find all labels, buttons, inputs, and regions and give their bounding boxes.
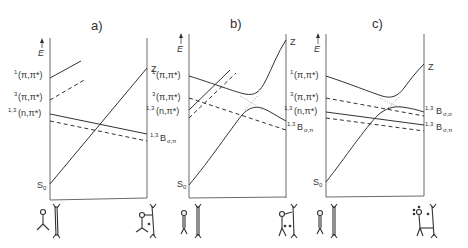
- label-sub: 0: [319, 182, 323, 188]
- curve-s0-b-b: [189, 107, 286, 185]
- label-sup: 1,3: [150, 132, 159, 138]
- curve-3pipi-c: [326, 98, 424, 116]
- label-sub: σ,π: [167, 138, 177, 144]
- molecule-product-a: [136, 204, 156, 238]
- label-1pipi-b: (π,π*): [156, 70, 180, 80]
- label-sub: σ,π: [304, 127, 314, 133]
- label-3pipi-b: (π,π*): [156, 92, 180, 102]
- curve-3pipi-b: [189, 98, 286, 130]
- label-b-sigma-sigma-c: B: [436, 106, 442, 116]
- bottom-axis-c: [326, 196, 424, 197]
- label-z-b: Z: [290, 37, 296, 47]
- label-1pipi-a: (π,π*): [18, 70, 42, 80]
- curve-1pipi-z-c: [326, 64, 424, 97]
- label-npi-c: (n,π*): [294, 106, 317, 116]
- curve-1pipi-z-b: [189, 40, 286, 94]
- correlation-diagram: a) E 1 (π,π*) 3 (π,π*) 1,3 (n,π*) S 0 Z …: [0, 0, 468, 248]
- label-b-sigma-pi-c: B: [436, 122, 442, 132]
- curve-npi-singlet-b: [189, 70, 230, 110]
- label-sup: 1,3: [8, 107, 17, 113]
- label-b-a: B: [160, 133, 166, 143]
- curve-1pipi-a: [50, 61, 81, 78]
- energy-label-a: E: [38, 48, 45, 58]
- label-b-b: B: [297, 122, 303, 132]
- panel-title-b: b): [230, 16, 242, 31]
- label-sup: 1,3: [425, 121, 434, 127]
- curve-npi-singlet-c: [326, 112, 424, 125]
- curve-npi-triplet-c: [326, 118, 424, 131]
- label-sup: 1,3: [284, 105, 293, 111]
- arrow-head-icon: [316, 33, 320, 38]
- label-sub: σ,π: [443, 127, 453, 133]
- label-sup: 1,3: [425, 105, 434, 111]
- label-3pipi-a: (π,π*): [18, 92, 42, 102]
- molecule-reactant-a: [37, 204, 60, 238]
- bottom-axis-b: [189, 197, 286, 198]
- label-sup: 1,3: [287, 121, 296, 127]
- label-1pipi-c: (π,π*): [294, 70, 318, 80]
- panel-title-c: c): [372, 16, 383, 31]
- panel-b: b) E 1 (π,π*) 3 (π,π*) 1,3 (n,π*) S 0 Z …: [146, 16, 314, 238]
- arrow-head-icon: [179, 33, 183, 38]
- bottom-axis-a: [50, 198, 147, 200]
- molecule-product-b: [279, 204, 297, 238]
- label-sup: 1,3: [146, 105, 155, 111]
- crossing-dotted-c2: [386, 96, 400, 110]
- label-3pipi-c: (π,π*): [294, 92, 318, 102]
- arrow-head-icon: [40, 38, 44, 43]
- energy-label-c: E: [314, 44, 321, 54]
- crossing-dotted-c: [380, 98, 402, 108]
- panel-title-a: a): [91, 18, 103, 33]
- label-sub: σ,σ: [443, 111, 452, 117]
- panel-a: a) E 1 (π,π*) 3 (π,π*) 1,3 (n,π*) S 0 Z …: [8, 18, 177, 238]
- energy-label-b: E: [177, 44, 184, 54]
- molecule-product-c: [413, 204, 437, 238]
- label-npi-b: (n,π*): [156, 106, 179, 116]
- molecule-reactant-b: [181, 204, 201, 238]
- curve-3pipi-a: [50, 79, 86, 100]
- label-sub: 0: [183, 184, 187, 190]
- molecule-reactant-c: [317, 204, 337, 238]
- curve-s0-z-a: [50, 68, 147, 184]
- label-z-c: Z: [428, 62, 434, 72]
- label-npi-a: (n,π*): [18, 108, 41, 118]
- label-sub: 0: [43, 185, 47, 191]
